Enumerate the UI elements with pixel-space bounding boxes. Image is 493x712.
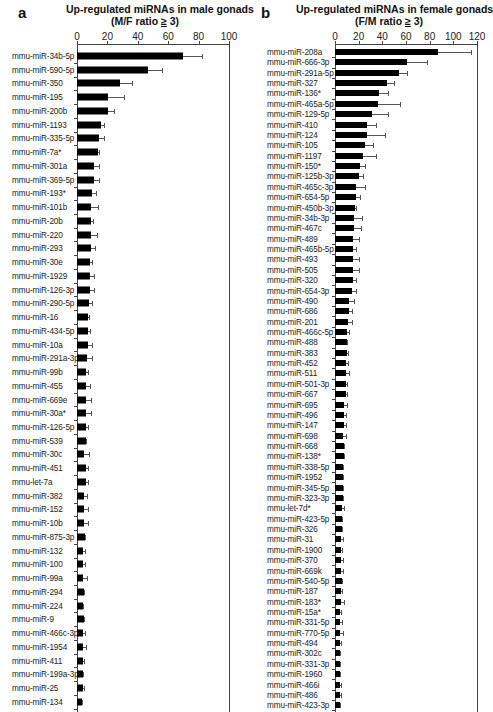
error-bar-cap [90, 384, 91, 389]
row-label: mmu-miR-493 [267, 255, 318, 264]
error-bar-cap [92, 301, 93, 306]
bar [335, 453, 344, 459]
error-bar-cap [88, 370, 89, 375]
error-bar-cap [356, 278, 357, 283]
bar [335, 111, 372, 117]
row-label: mmu-miR-7a* [12, 148, 61, 157]
row-label: mmu-miR-1900 [267, 545, 322, 554]
y-tick-mark [332, 130, 335, 131]
error-bar-cap [376, 123, 377, 128]
bar [335, 70, 399, 76]
bar [77, 478, 86, 485]
row-label: mmu-miR-345-5p [267, 483, 329, 492]
y-tick-mark [74, 63, 77, 64]
x-tick-mark [453, 41, 454, 44]
error-bar-cap [95, 246, 96, 251]
row-label: mmu-miR-1960 [267, 670, 322, 679]
bar [77, 341, 88, 348]
bar [335, 474, 343, 480]
x-tick-mark [359, 41, 360, 44]
error-bar [83, 578, 87, 579]
y-tick-mark [332, 555, 335, 556]
error-bar-cap [343, 496, 344, 501]
y-tick-mark [332, 513, 335, 514]
y-tick-mark [332, 140, 335, 141]
error-bar-cap [83, 604, 84, 609]
error-bar-cap [124, 95, 125, 100]
y-tick-mark [332, 88, 335, 89]
bar [77, 66, 148, 73]
y-tick-mark [332, 586, 335, 587]
error-bar [353, 239, 359, 240]
row-label: mmu-miR-451 [12, 464, 63, 473]
row-label: mmu-miR-34b-5p [12, 52, 74, 61]
error-bar-cap [93, 219, 94, 224]
y-tick-mark [74, 667, 77, 668]
row-label: mmu-miR-30e [12, 258, 63, 267]
y-tick-mark [332, 399, 335, 400]
row-label: mmu-miR-294 [12, 587, 63, 596]
row-label: mmu-miR-654-5p [267, 193, 329, 202]
error-bar-cap [104, 136, 105, 141]
y-tick-mark [74, 612, 77, 613]
error-bar-cap [341, 641, 342, 646]
error-bar [353, 259, 359, 260]
y-tick-mark [332, 679, 335, 680]
error-bar-cap [91, 411, 92, 416]
y-tick-mark [332, 78, 335, 79]
error-bar-cap [342, 579, 343, 584]
y-tick-mark [332, 524, 335, 525]
row-label: mmu-miR-668 [267, 442, 318, 451]
y-tick-mark [332, 503, 335, 504]
error-bar-cap [343, 631, 344, 636]
row-label: mmu-miR-1952 [267, 473, 322, 482]
y-tick-mark [74, 393, 77, 394]
error-bar [353, 270, 359, 271]
row-label: mmu-miR-126-3p [12, 285, 74, 294]
y-tick-mark [74, 681, 77, 682]
error-bar-cap [347, 403, 348, 408]
row-label: mmu-miR-323-3p [267, 493, 329, 502]
panel-a-title: Up-regulated miRNAs in male gonads (M/F … [66, 3, 240, 27]
y-tick-mark [74, 475, 77, 476]
bar [77, 245, 91, 252]
bar [77, 204, 91, 211]
bar [77, 355, 87, 362]
y-tick-mark [74, 709, 77, 710]
error-bar-cap [388, 112, 389, 117]
y-tick-mark [74, 214, 77, 215]
row-label: mmu-miR-16 [12, 313, 58, 322]
error-bar-cap [344, 444, 345, 449]
y-tick-mark [74, 654, 77, 655]
error-bar-cap [394, 81, 395, 86]
error-bar [148, 70, 162, 71]
y-tick-mark [332, 233, 335, 234]
error-bar-cap [85, 549, 86, 554]
error-bar-cap [342, 527, 343, 532]
row-label: mmu-miR-331-5p [267, 618, 329, 627]
y-tick-mark [332, 441, 335, 442]
row-label: mmu-miR-99a [12, 574, 63, 583]
row-label: mmu-miR-1193 [12, 120, 67, 129]
row-label: mmu-miR-350 [12, 79, 63, 88]
error-bar-cap [88, 521, 89, 526]
y-tick-mark [332, 57, 335, 58]
row-label: mmu-miR-669e [12, 395, 67, 404]
row-label: mmu-miR-465a-5p [267, 99, 334, 108]
row-label: mmu-miR-129-5p [267, 110, 329, 119]
bar [335, 59, 407, 65]
error-bar-cap [85, 631, 86, 636]
bar [335, 433, 343, 439]
bar [335, 298, 349, 304]
error-bar [360, 166, 365, 167]
bar [335, 122, 367, 128]
row-label: mmu-miR-465c-3p [267, 182, 333, 191]
y-tick-mark [74, 296, 77, 297]
row-label: mmu-miR-125b-3p [267, 172, 334, 181]
row-label: mmu-miR-208a [267, 48, 322, 57]
error-bar-cap [340, 703, 341, 708]
bar [335, 267, 353, 273]
error-bar-cap [349, 371, 350, 376]
error-bar-cap [361, 226, 362, 231]
y-tick-mark [332, 534, 335, 535]
